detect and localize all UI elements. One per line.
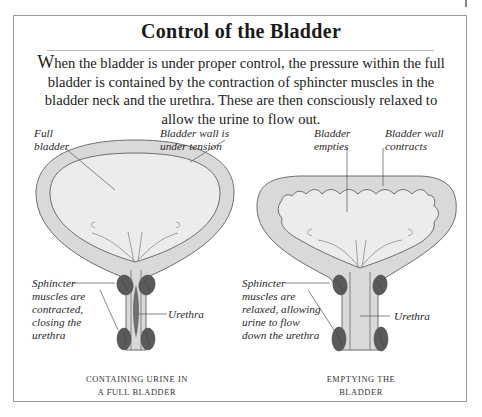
full-sphincter-lower-left — [117, 328, 131, 350]
label-emptying-urethra: Urethra — [394, 310, 430, 323]
label-full-urethra: Urethra — [168, 308, 204, 321]
caption-full: CONTAINING URINE IN A FULL BLADDER — [72, 373, 202, 399]
label-bladder-empties: Bladder empties — [314, 127, 350, 153]
label-full-bladder: Full bladder — [34, 127, 69, 153]
label-full-sphincter: Sphincter muscles are contracted, closin… — [32, 277, 85, 342]
label-wall-contracts: Bladder wall contracts — [385, 127, 444, 153]
label-wall-tension: Bladder wall is under tension — [160, 127, 229, 153]
label-emptying-sphincter: Sphincter muscles are relaxed, allowing … — [242, 277, 321, 342]
bladder-illustrations — [0, 0, 482, 417]
caption-emptying: EMPTYING THE BLADDER — [313, 373, 409, 399]
